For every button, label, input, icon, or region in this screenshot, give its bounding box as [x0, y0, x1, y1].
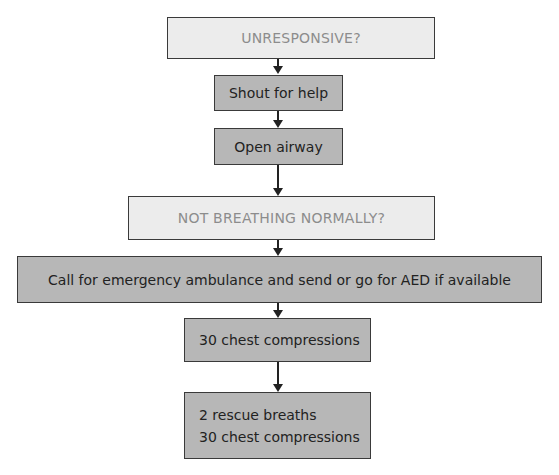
- step-chest-compressions: 30 chest compressions: [184, 318, 371, 362]
- step-breaths-compressions-cycle: 2 rescue breaths 30 chest compressions: [184, 392, 371, 459]
- step-call-ambulance: Call for emergency ambulance and send or…: [17, 256, 542, 303]
- step-label: 30 chest compressions: [199, 332, 360, 348]
- step-not-breathing-normally: NOT BREATHING NORMALLY?: [128, 196, 435, 240]
- step-unresponsive: UNRESPONSIVE?: [167, 17, 435, 59]
- step-open-airway: Open airway: [214, 128, 343, 165]
- step-label: Shout for help: [229, 85, 328, 101]
- step-line: 30 chest compressions: [199, 426, 360, 448]
- step-line: 2 rescue breaths: [199, 404, 317, 426]
- step-label: Call for emergency ambulance and send or…: [48, 272, 511, 288]
- step-shout-for-help: Shout for help: [214, 75, 343, 111]
- step-label: UNRESPONSIVE?: [241, 30, 361, 46]
- step-label: Open airway: [234, 139, 322, 155]
- step-label: NOT BREATHING NORMALLY?: [178, 210, 385, 226]
